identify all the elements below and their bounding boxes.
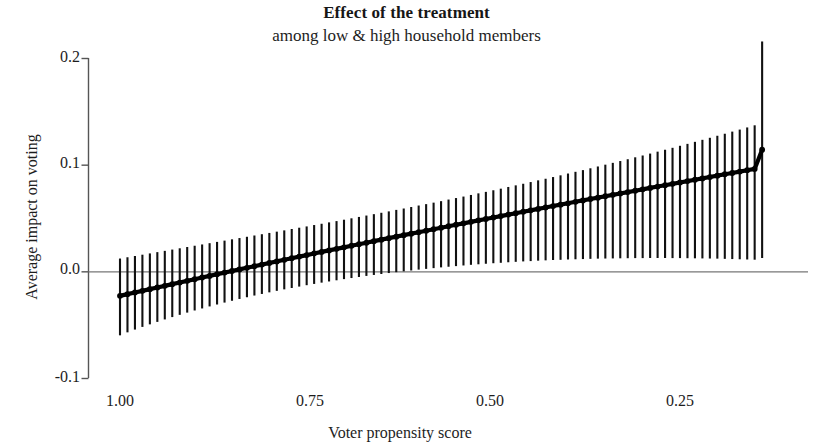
plot-area (0, 0, 813, 448)
error-bars (120, 41, 762, 335)
chart-page: Effect of the treatment among low & high… (0, 0, 813, 448)
y-axis-bracket (82, 58, 89, 379)
